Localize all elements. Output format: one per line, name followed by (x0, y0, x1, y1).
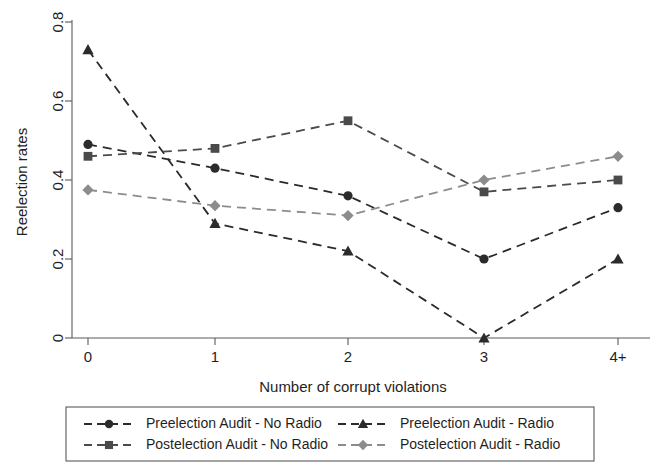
legend-label: Preelection Audit - Radio (400, 415, 554, 431)
square-marker (480, 187, 489, 196)
diamond-marker (209, 200, 220, 211)
series-line (88, 121, 618, 192)
series-line (88, 156, 618, 215)
chart-legend: Preelection Audit - No RadioPreelection … (66, 407, 594, 461)
x-tick-label: 0 (84, 348, 92, 365)
x-tick-label: 4+ (609, 348, 626, 365)
y-axis: 00.20.40.60.8 (49, 12, 72, 343)
circle-marker (83, 140, 92, 149)
x-tick-label: 3 (480, 348, 488, 365)
series-line (88, 50, 618, 338)
circle-marker (210, 164, 219, 173)
chart-svg: 00.20.40.60.8 01234+ Preelection Audit -… (0, 0, 660, 475)
x-axis-title: Number of corrupt violations (259, 378, 447, 395)
diamond-marker (478, 174, 489, 185)
legend-label: Postelection Audit - Radio (400, 436, 561, 452)
series-0 (83, 140, 622, 264)
circle-marker (613, 203, 622, 212)
triangle-marker (612, 253, 623, 263)
series-line (88, 144, 618, 259)
square-marker (84, 152, 93, 161)
y-tick-label: 0.6 (49, 91, 66, 112)
series-1 (82, 44, 623, 342)
square-marker (211, 144, 220, 153)
triangle-marker (82, 44, 93, 54)
x-tick-label: 2 (344, 348, 352, 365)
triangle-marker (209, 218, 220, 228)
y-tick-label: 0 (49, 334, 66, 342)
x-axis: 01234+ (72, 338, 650, 365)
diamond-marker (82, 184, 93, 195)
data-series-group (82, 44, 623, 342)
circle-marker (105, 420, 113, 428)
square-marker (344, 116, 353, 125)
square-marker (614, 176, 623, 185)
triangle-marker (478, 332, 489, 342)
series-2 (84, 116, 623, 196)
circle-marker (479, 254, 488, 263)
legend-label: Postelection Audit - No Radio (146, 436, 328, 452)
y-tick-label: 0.2 (49, 249, 66, 270)
series-3 (82, 151, 623, 221)
y-tick-label: 0.4 (49, 170, 66, 191)
y-axis-title: Reelection rates (13, 128, 30, 236)
circle-marker (343, 191, 352, 200)
legend-label: Preelection Audit - No Radio (146, 415, 322, 431)
diamond-marker (612, 151, 623, 162)
x-tick-label: 1 (211, 348, 219, 365)
chart-figure: 00.20.40.60.8 01234+ Preelection Audit -… (0, 0, 660, 475)
diamond-marker (342, 210, 353, 221)
square-marker (105, 441, 113, 449)
y-tick-label: 0.8 (49, 12, 66, 33)
